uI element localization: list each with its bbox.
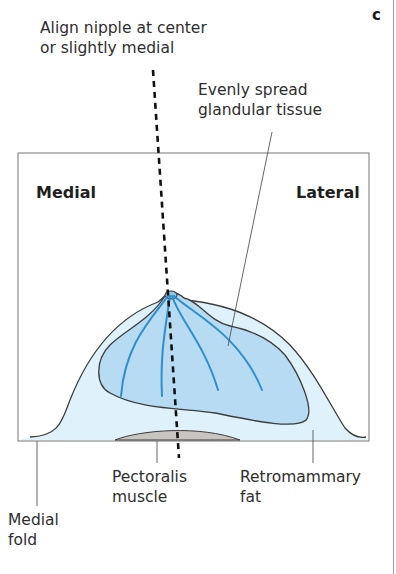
medial-fold-line2: fold [8,530,59,550]
retromammary-line1: Retromammary [240,467,361,487]
medial-fold-annotation: Medial fold [8,510,59,550]
pectoralis-line1: Pectoralis [112,467,187,487]
medial-side-label: Medial [36,183,96,202]
pectoralis-annotation: Pectoralis muscle [112,467,187,507]
glandular-leader-line [228,132,272,346]
retromammary-annotation: Retromammary fat [240,467,361,507]
retromammary-line2: fat [240,487,361,507]
lateral-side-label: Lateral [296,183,360,202]
pectoralis-line2: muscle [112,487,187,507]
medial-fold-line1: Medial [8,510,59,530]
